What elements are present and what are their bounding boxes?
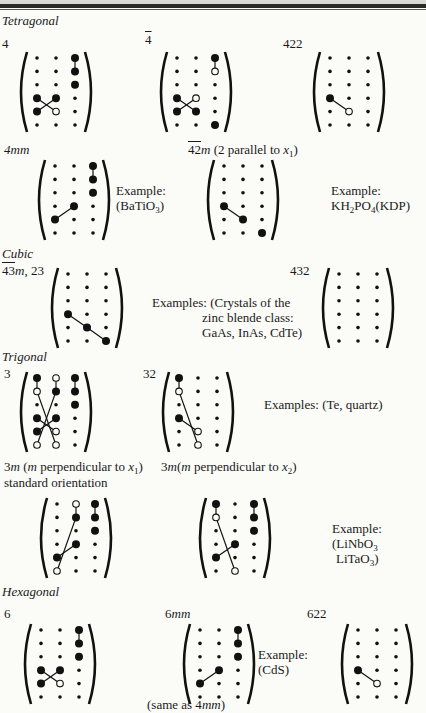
nonzero-dot bbox=[196, 680, 204, 688]
nonzero-dot bbox=[173, 94, 181, 102]
zero-dot bbox=[215, 403, 219, 407]
zero-dot bbox=[356, 272, 360, 276]
nonzero-dot bbox=[239, 216, 247, 224]
zero-dot bbox=[356, 286, 360, 290]
nonzero-dot bbox=[250, 527, 258, 535]
left-paren bbox=[184, 624, 190, 704]
nonzero-dot bbox=[234, 626, 242, 634]
header-rule bbox=[0, 4, 426, 8]
nonzero-dot bbox=[33, 414, 41, 422]
zero-dot bbox=[260, 164, 264, 168]
zero-dot bbox=[104, 312, 108, 316]
zero-dot bbox=[73, 96, 77, 100]
left-paren bbox=[39, 160, 45, 240]
nonzero-dot bbox=[33, 108, 41, 116]
zero-dot bbox=[222, 191, 226, 195]
zero-dot bbox=[366, 110, 370, 114]
nonzero-dot bbox=[250, 500, 258, 508]
nonzero-dot bbox=[71, 401, 79, 409]
group-label-3: 3 bbox=[4, 366, 11, 381]
zero-dot bbox=[72, 231, 76, 235]
nonzero-dot bbox=[75, 653, 83, 661]
zero-dot bbox=[85, 272, 89, 276]
right-paren bbox=[105, 498, 111, 578]
zero-dot bbox=[217, 682, 221, 686]
zero-dot bbox=[53, 204, 57, 208]
zero-dot bbox=[91, 218, 95, 222]
zero-dot bbox=[375, 339, 379, 343]
zero-dot bbox=[375, 272, 379, 276]
zero-dot bbox=[241, 191, 245, 195]
nonzero-dot bbox=[102, 337, 110, 345]
matrix-6 bbox=[22, 624, 98, 704]
nonzero-dot bbox=[71, 374, 79, 382]
zero-dot bbox=[66, 299, 70, 303]
zero-dot bbox=[375, 668, 379, 672]
zero-dot bbox=[66, 272, 70, 276]
zero-dot bbox=[236, 682, 240, 686]
zero-dot bbox=[77, 695, 81, 699]
zero-dot bbox=[375, 326, 379, 330]
example-cds: Example: (CdS) bbox=[258, 647, 308, 677]
matrix-622 bbox=[339, 624, 415, 704]
zero-dot bbox=[72, 218, 76, 222]
nonzero-dot bbox=[71, 54, 79, 62]
zero-dot bbox=[215, 416, 219, 420]
negative-dot bbox=[53, 375, 60, 382]
example-linbo3: Example: (LiNbO3 LiTaO3) bbox=[332, 521, 382, 566]
negative-dot bbox=[54, 568, 61, 575]
group-label-6mm: 6mm bbox=[165, 606, 190, 621]
zero-dot bbox=[214, 529, 218, 533]
zero-dot bbox=[217, 628, 221, 632]
zero-dot bbox=[104, 326, 108, 330]
zero-dot bbox=[337, 312, 341, 316]
zero-dot bbox=[58, 695, 62, 699]
nonzero-dot bbox=[91, 527, 99, 535]
left-paren bbox=[52, 268, 58, 348]
matrix-3m-x1 bbox=[38, 498, 114, 578]
zero-dot bbox=[85, 339, 89, 343]
zero-dot bbox=[194, 123, 198, 127]
zero-dot bbox=[58, 642, 62, 646]
zero-dot bbox=[53, 231, 57, 235]
matrix-4mm bbox=[36, 160, 112, 240]
zero-dot bbox=[222, 178, 226, 182]
right-paren bbox=[89, 624, 95, 704]
zero-dot bbox=[177, 430, 181, 434]
left-paren bbox=[41, 498, 47, 578]
example-zinc-blende: Examples: (Crystals of the zinc blende c… bbox=[152, 295, 302, 340]
zero-dot bbox=[72, 178, 76, 182]
left-paren bbox=[342, 624, 348, 704]
nonzero-dot bbox=[75, 626, 83, 634]
header-rule-thin bbox=[0, 9, 426, 10]
group-label-4bar: 4 bbox=[145, 32, 152, 47]
nonzero-dot bbox=[71, 67, 79, 75]
zero-dot bbox=[39, 642, 43, 646]
zero-dot bbox=[66, 326, 70, 330]
right-paren bbox=[116, 268, 122, 348]
nonzero-dot bbox=[52, 94, 60, 102]
zero-dot bbox=[73, 430, 77, 434]
zero-dot bbox=[394, 642, 398, 646]
zero-dot bbox=[55, 529, 59, 533]
nonzero-dot bbox=[71, 81, 79, 89]
zero-dot bbox=[58, 655, 62, 659]
zero-dot bbox=[217, 655, 221, 659]
nonzero-dot bbox=[212, 500, 220, 508]
nonzero-dot bbox=[220, 202, 228, 210]
zero-dot bbox=[366, 70, 370, 74]
zero-dot bbox=[337, 272, 341, 276]
zero-dot bbox=[198, 642, 202, 646]
zero-dot bbox=[328, 110, 332, 114]
zero-dot bbox=[77, 668, 81, 672]
right-paren bbox=[85, 52, 91, 132]
zero-dot bbox=[53, 178, 57, 182]
negative-dot bbox=[53, 442, 60, 449]
zero-dot bbox=[198, 628, 202, 632]
zero-dot bbox=[177, 443, 181, 447]
zero-dot bbox=[394, 682, 398, 686]
zero-dot bbox=[196, 416, 200, 420]
zero-dot bbox=[55, 542, 59, 546]
zero-dot bbox=[366, 123, 370, 127]
negative-dot bbox=[34, 388, 41, 395]
